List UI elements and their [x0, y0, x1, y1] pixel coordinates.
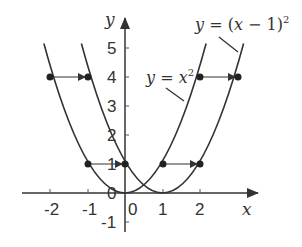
y-tick-label: 4 [107, 68, 116, 87]
y-tick-label: -1 [101, 213, 116, 232]
curve2-leader [219, 37, 238, 52]
curve-x-minus-1-squared [81, 44, 243, 193]
data-points [47, 74, 242, 168]
x-tick-label: 2 [195, 200, 204, 219]
x-tick-label: 0 [128, 200, 137, 219]
y-tick-label: 3 [107, 97, 116, 116]
x-tick-label: -1 [82, 200, 97, 219]
curve1-label: y = x2 [145, 67, 194, 87]
curve2-label: y = (x − 1)2 [194, 14, 289, 34]
y-tick-label: 5 [107, 39, 116, 58]
curve1-leader [166, 88, 184, 101]
x-axis-label: x [242, 199, 252, 219]
function-graph: -2 -1 0 1 2 x 5 4 3 2 1 0 -1 y y = x2 y … [0, 0, 302, 247]
x-tick-label: -2 [44, 200, 59, 219]
y-axis-label: y [104, 9, 115, 29]
x-tick-label: 1 [158, 200, 167, 219]
